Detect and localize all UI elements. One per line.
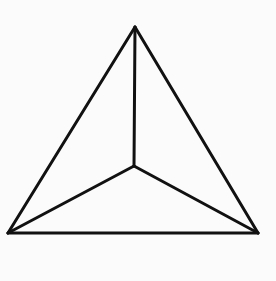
pyramid-diagram [0,0,276,281]
edge-apex-center [134,27,135,166]
diagram-canvas [0,0,276,281]
edge-apex-bottom_left [8,27,135,233]
edge-apex-bottom_right [135,27,258,233]
